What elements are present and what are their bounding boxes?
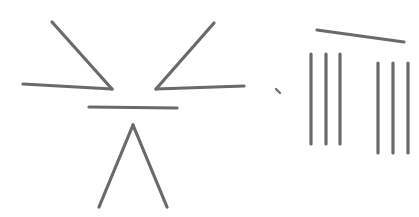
figure-left xyxy=(23,22,244,207)
left-upper-diagonal-stick xyxy=(52,22,112,89)
top-slanted-bar-stick xyxy=(317,30,404,42)
matchstick-diagram xyxy=(0,0,419,217)
marks xyxy=(276,89,280,93)
small-tick-mark-stick xyxy=(276,89,280,93)
right-lower-arm-stick xyxy=(156,86,244,89)
left-lower-arm-stick xyxy=(23,84,112,89)
right-upper-diagonal-stick xyxy=(156,23,214,89)
middle-bar-stick xyxy=(89,107,177,108)
lambda-left-leg-stick xyxy=(99,125,133,207)
figure-right xyxy=(311,30,408,153)
lambda-right-leg-stick xyxy=(133,125,167,207)
